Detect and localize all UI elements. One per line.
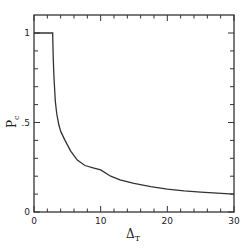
tick-labels: 01020300.51 — [21, 28, 240, 226]
x-tick-label: 20 — [162, 216, 174, 226]
y-tick-label: .5 — [21, 118, 30, 128]
y-axis-label: Pc — [5, 115, 21, 128]
x-tick-label: 30 — [228, 216, 240, 226]
x-tick-label: 0 — [31, 216, 37, 226]
y-tick-label: 0 — [24, 207, 30, 217]
chart: 01020300.51 ΔT Pc — [0, 0, 250, 250]
y-tick-label: 1 — [24, 28, 30, 38]
axis-ticks — [34, 15, 234, 212]
x-axis-label: ΔT — [126, 227, 141, 243]
x-tick-label: 10 — [95, 216, 107, 226]
plot-frame — [34, 15, 234, 212]
data-curve — [34, 33, 234, 194]
